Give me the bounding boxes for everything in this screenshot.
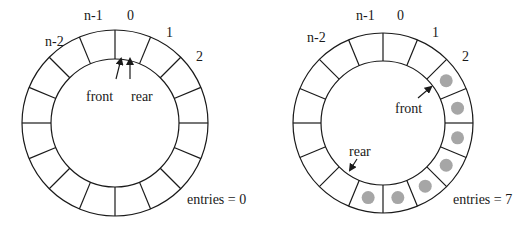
slot-divider [139, 37, 150, 64]
queue-entry-dot [451, 102, 464, 115]
slot-divider [300, 147, 326, 158]
left-rear-label: rear [131, 89, 153, 104]
slot-divider [440, 89, 466, 100]
slot-divider [29, 87, 56, 98]
slot-divider [174, 147, 201, 158]
slot-divider [407, 180, 418, 206]
slot-divider [319, 59, 339, 79]
queue-entry-dot [440, 159, 453, 172]
inner-circle [51, 59, 179, 187]
right-queue: n-2 n-1 0 1 2 front rear entries = 7 [293, 8, 512, 213]
slot-divider [349, 40, 360, 66]
left-queue: n-2 n-1 0 1 2 front rear entries = 0 [22, 8, 246, 216]
slot-divider [300, 89, 326, 100]
slot-divider [79, 37, 90, 64]
circular-queue-diagram: n-2 n-1 0 1 2 front rear entries = 0 n-2… [0, 0, 531, 231]
right-label-n-1: n-1 [356, 8, 375, 23]
right-label-0: 0 [397, 8, 404, 23]
left-label-n-1: n-1 [84, 8, 103, 23]
left-ring [22, 30, 208, 216]
left-label-0: 0 [127, 8, 134, 23]
right-label-n-2: n-2 [307, 30, 326, 45]
right-entries-label: entries = 7 [453, 192, 512, 207]
right-front-label: front [395, 101, 422, 116]
inner-circle [321, 61, 445, 185]
slot-divider [349, 180, 360, 206]
left-label-2: 2 [196, 49, 203, 64]
queue-entry-dot [362, 191, 375, 204]
slot-divider [49, 168, 70, 189]
right-rear-arrow-icon [350, 159, 357, 170]
left-front-label: front [86, 89, 113, 104]
slot-divider [79, 182, 90, 209]
slot-divider [174, 87, 201, 98]
slot-divider [407, 40, 418, 66]
slot-divider [160, 168, 181, 189]
left-label-1: 1 [166, 25, 173, 40]
queue-entry-dot [451, 131, 464, 144]
slot-divider [319, 167, 339, 187]
right-ring [293, 33, 473, 213]
right-label-2: 2 [462, 49, 469, 64]
slot-divider [160, 57, 181, 78]
left-entries-label: entries = 0 [187, 192, 246, 207]
right-label-1: 1 [432, 25, 439, 40]
left-label-n-2: n-2 [45, 34, 64, 49]
queue-entry-dot [391, 191, 404, 204]
slot-divider [139, 182, 150, 209]
queue-entry-dot [440, 74, 453, 87]
slot-divider [440, 147, 466, 158]
right-front-arrow-icon [418, 87, 431, 98]
slot-divider [49, 57, 70, 78]
queue-entry-dot [419, 180, 432, 193]
slot-divider [29, 147, 56, 158]
right-rear-label: rear [349, 144, 371, 159]
left-front-arrow-icon [116, 59, 121, 79]
